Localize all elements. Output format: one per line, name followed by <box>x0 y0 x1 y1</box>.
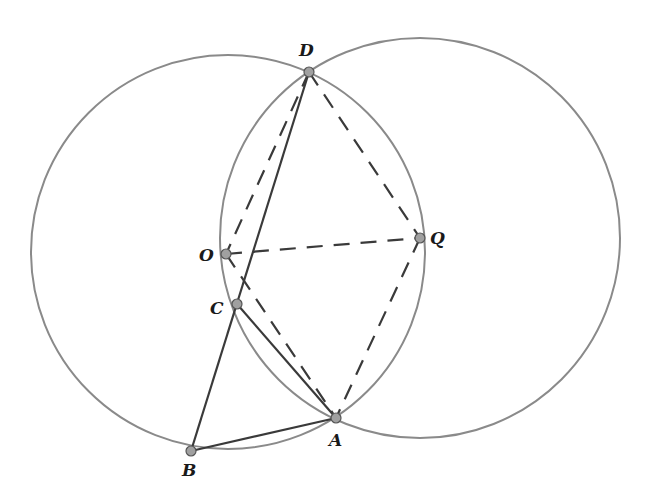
segment-qa <box>336 238 420 418</box>
label-b: B <box>181 460 196 480</box>
segment-oa <box>226 254 336 418</box>
point-b <box>186 446 196 456</box>
segment-dq <box>309 72 420 238</box>
segment-do <box>226 72 309 254</box>
label-q: Q <box>430 228 445 248</box>
point-c <box>232 299 242 309</box>
geometry-diagram: D O Q C A B <box>0 0 647 500</box>
point-q <box>415 233 425 243</box>
segments <box>191 72 420 451</box>
label-c: C <box>210 298 224 318</box>
segment-ca <box>237 304 336 418</box>
label-a: A <box>327 430 342 450</box>
circles <box>31 38 620 449</box>
point-d <box>304 67 314 77</box>
label-o: O <box>199 245 214 265</box>
point-a <box>331 413 341 423</box>
point-o <box>221 249 231 259</box>
label-d: D <box>298 40 314 60</box>
